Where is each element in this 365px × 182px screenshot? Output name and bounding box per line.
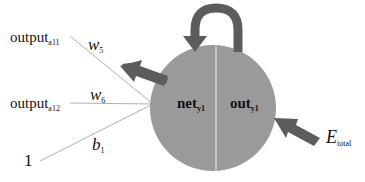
input-label-a11: outputa11 [10,30,60,47]
weight-subscript: 5 [99,46,103,55]
weight-text: w [88,35,99,54]
weight-subscript: 1 [101,146,105,155]
input-subscript: a11 [48,38,59,47]
out-text: out [230,95,251,111]
input-subscript: a12 [48,104,60,113]
edge-w6 [70,103,153,104]
input-text: output [10,95,48,111]
bias-input-label: 1 [24,152,33,169]
weight-text: b [92,135,101,154]
net-subscript: y1 [197,104,205,113]
out-label: outy1 [230,96,259,113]
backprop-diagram: outputa11 w5 outputa12 w6 1 b1 nety1 out… [0,0,365,182]
weight-text: w [90,85,101,104]
weight-subscript: 6 [101,96,105,105]
error-label: Etotal [326,128,351,148]
weight-label-b1: b1 [92,136,105,155]
input-text: output [10,29,48,45]
weight-label-w5: w5 [88,36,103,55]
weight-label-w6: w6 [90,86,105,105]
diagram-graphics [0,0,365,182]
error-text: E [326,127,337,147]
error-arrow-icon [274,118,320,146]
out-subscript: y1 [251,104,259,113]
net-label: nety1 [177,96,205,113]
input-label-a12: outputa12 [10,96,60,113]
net-text: net [177,95,197,111]
error-subscript: total [337,139,351,148]
input-text: 1 [24,151,33,170]
